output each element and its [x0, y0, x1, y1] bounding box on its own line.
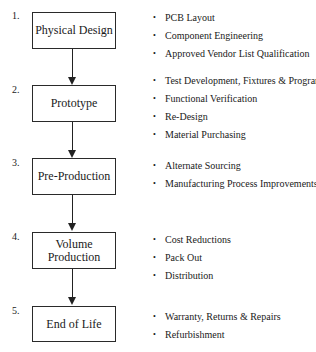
arrow-down-icon: [68, 150, 76, 158]
bullet-icon: •: [153, 160, 165, 178]
stage-label: End of Life: [46, 318, 101, 331]
stage-3-bullets: •Alternate Sourcing •Manufacturing Proce…: [153, 160, 316, 196]
bullet-icon: •: [153, 30, 165, 48]
stage-1-bullets: •PCB Layout •Component Engineering •Appr…: [153, 12, 310, 66]
bullet-icon: •: [153, 311, 165, 329]
list-item: •Functional Verification: [153, 93, 316, 111]
list-item: •Alternate Sourcing: [153, 160, 316, 178]
list-item: •Manufacturing Process Improvements: [153, 178, 316, 196]
list-item: •Warranty, Returns & Repairs: [153, 311, 281, 329]
bullet-icon: •: [153, 111, 165, 129]
stage-box-prototype: Prototype: [32, 85, 116, 122]
stage-label-line2: Production: [48, 251, 101, 264]
bullet-icon: •: [153, 75, 165, 93]
arrow-down-icon: [68, 77, 76, 85]
stage-number-2: 2.: [12, 84, 20, 95]
stage-label: Pre-Production: [38, 170, 111, 183]
stage-box-volume-production: Volume Production: [32, 232, 116, 269]
stage-number-5: 5.: [12, 305, 20, 316]
stage-4-bullets: •Cost Reductions •Pack Out •Distribution: [153, 234, 231, 288]
list-item: •Material Purchasing: [153, 129, 316, 147]
arrow-line-4-5: [72, 269, 73, 298]
bullet-icon: •: [153, 178, 165, 196]
stage-box-pre-production: Pre-Production: [32, 158, 116, 195]
arrow-line-2-3: [72, 122, 73, 151]
list-item: •Test Development, Fixtures & Programs: [153, 75, 316, 93]
list-item: •Re-Design: [153, 111, 316, 129]
arrow-line-3-4: [72, 195, 73, 224]
stage-number-1: 1.: [12, 10, 20, 21]
stage-label: Physical Design: [35, 24, 113, 37]
bullet-icon: •: [153, 329, 165, 347]
list-item: •Approved Vendor List Qualification: [153, 48, 310, 66]
stage-box-end-of-life: End of Life: [32, 306, 116, 342]
arrow-down-icon: [68, 297, 76, 305]
stage-2-bullets: •Test Development, Fixtures & Programs •…: [153, 75, 316, 147]
bullet-icon: •: [153, 48, 165, 66]
bullet-icon: •: [153, 129, 165, 147]
bullet-icon: •: [153, 234, 165, 252]
bullet-icon: •: [153, 252, 165, 270]
arrow-line-1-2: [72, 49, 73, 78]
bullet-icon: •: [153, 270, 165, 288]
stage-number-3: 3.: [12, 157, 20, 168]
bullet-icon: •: [153, 12, 165, 30]
list-item: •Pack Out: [153, 252, 231, 270]
list-item: •PCB Layout: [153, 12, 310, 30]
list-item: •Component Engineering: [153, 30, 310, 48]
stage-label: Prototype: [51, 97, 98, 110]
stage-label-line1: Volume: [55, 238, 92, 251]
arrow-down-icon: [68, 223, 76, 231]
list-item: •Cost Reductions: [153, 234, 231, 252]
bullet-icon: •: [153, 93, 165, 111]
stage-5-bullets: •Warranty, Returns & Repairs •Refurbishm…: [153, 311, 281, 347]
stage-box-physical-design: Physical Design: [32, 12, 116, 49]
list-item: •Refurbishment: [153, 329, 281, 347]
list-item: •Distribution: [153, 270, 231, 288]
stage-number-4: 4.: [12, 231, 20, 242]
